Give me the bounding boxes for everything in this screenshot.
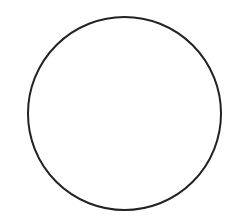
diagram-canvas [0,0,232,217]
circle-shape [28,17,221,210]
